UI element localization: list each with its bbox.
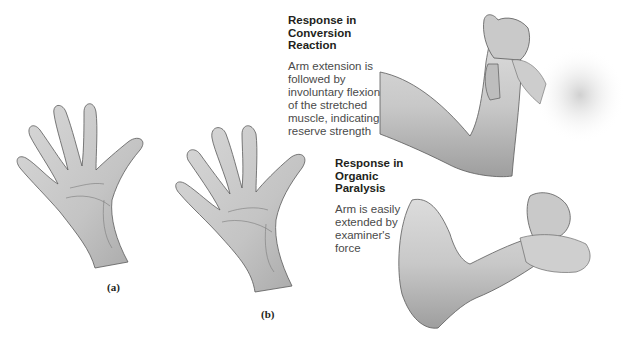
examiner-hand-motion-blur — [535, 47, 625, 143]
body-line: examiner's — [335, 229, 425, 242]
caption-conversion-reaction: Response in Conversion Reaction Arm exte… — [288, 14, 408, 138]
heading-line: Response in — [288, 14, 408, 27]
body-line: Arm is easily — [335, 203, 425, 216]
hand-b-illustration — [176, 126, 305, 292]
heading-line: Response in — [335, 157, 425, 170]
caption-conversion-body: Arm extension is followed by involuntary… — [288, 60, 408, 138]
body-line: Arm extension is — [288, 60, 408, 73]
caption-organic-body: Arm is easily extended by examiner's for… — [335, 203, 425, 255]
hand-a-illustration — [17, 104, 143, 268]
arm-organic-illustration — [399, 193, 590, 328]
caption-organic-paralysis: Response in Organic Paralysis Arm is eas… — [335, 157, 425, 255]
body-line: of the stretched — [288, 99, 408, 112]
body-line: reserve strength — [288, 125, 408, 138]
arm-conversion-illustration — [380, 15, 625, 177]
caption-conversion-heading: Response in Conversion Reaction — [288, 14, 408, 52]
body-line: followed by — [288, 73, 408, 86]
heading-line: Organic — [335, 170, 425, 183]
heading-line: Reaction — [288, 39, 408, 52]
panel-label-a: (a) — [107, 281, 120, 293]
body-line: force — [335, 242, 425, 255]
heading-line: Paralysis — [335, 182, 425, 195]
heading-line: Conversion — [288, 27, 408, 40]
body-line: involuntary flexion — [288, 86, 408, 99]
caption-organic-heading: Response in Organic Paralysis — [335, 157, 425, 195]
body-line: extended by — [335, 216, 425, 229]
body-line: muscle, indicating — [288, 112, 408, 125]
panel-label-b: (b) — [261, 308, 274, 320]
